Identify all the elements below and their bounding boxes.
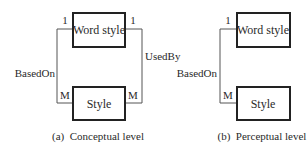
entity-style-a-label: Style	[87, 97, 112, 111]
card-usedby-from-a: 1	[130, 14, 136, 26]
card-basedon-to-a: M	[60, 89, 70, 101]
rel-basedon-b: BasedOn	[177, 67, 218, 79]
diagram-canvas: Word style Style 1 M BasedOn 1 M UsedBy …	[0, 0, 307, 153]
card-basedon-from-a: 1	[62, 14, 68, 26]
card-basedon-to-b: M	[223, 89, 233, 101]
caption-b: (b) Perceptual level	[218, 130, 307, 143]
card-basedon-from-b: 1	[225, 14, 231, 26]
panel-conceptual: Word style Style 1 M BasedOn 1 M UsedBy …	[15, 13, 181, 143]
panel-perceptual: Word style Style 1 M BasedOn (b) Percept…	[177, 13, 307, 143]
card-usedby-to-a: M	[128, 89, 138, 101]
rel-basedon-a: BasedOn	[15, 67, 56, 79]
entity-word-style-a-label: Word style	[73, 23, 125, 37]
caption-a: (a) Conceptual level	[52, 130, 144, 143]
rel-usedby-a: UsedBy	[145, 50, 181, 62]
entity-word-style-b-label: Word style	[237, 23, 289, 37]
entity-style-b-label: Style	[251, 97, 276, 111]
